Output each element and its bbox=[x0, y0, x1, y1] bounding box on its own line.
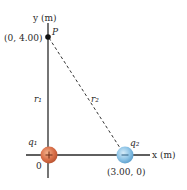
point-p-dot bbox=[45, 34, 51, 40]
point-p-coords: (0, 4.00) bbox=[4, 33, 43, 43]
q2-label: q₂ bbox=[130, 138, 139, 148]
q1-label: q₁ bbox=[28, 137, 37, 147]
x-axis-label: x (m) bbox=[152, 150, 176, 160]
point-p-label: P bbox=[52, 27, 58, 37]
r2-dashed-line bbox=[49, 38, 122, 151]
r1-label: r₁ bbox=[34, 94, 42, 104]
origin-label: 0 bbox=[36, 161, 42, 171]
y-axis-label: y (m) bbox=[33, 13, 57, 23]
q2-coords: (3.00, 0) bbox=[107, 167, 146, 177]
r2-label: r₂ bbox=[91, 94, 99, 104]
